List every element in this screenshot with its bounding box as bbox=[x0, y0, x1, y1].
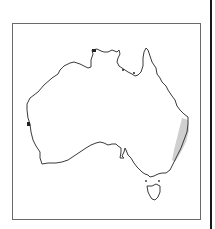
island-marker bbox=[158, 180, 160, 182]
distribution-range-east-coast bbox=[172, 118, 189, 162]
island-marker bbox=[145, 180, 147, 182]
tasmania-outline bbox=[147, 184, 160, 200]
australia-map bbox=[0, 0, 215, 229]
mainland-outline bbox=[27, 48, 188, 177]
coastal-feature-marker bbox=[122, 69, 124, 71]
coastal-feature-marker bbox=[133, 72, 135, 74]
coastal-feature-marker bbox=[27, 122, 30, 126]
coastal-feature-marker bbox=[92, 49, 96, 52]
